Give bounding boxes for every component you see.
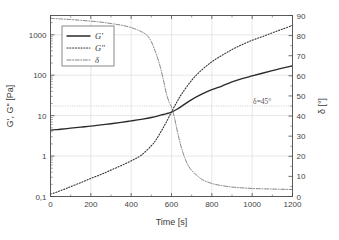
y-tick-label: 0,1: [35, 193, 47, 202]
x-tick-label: 1000: [243, 200, 261, 209]
legend-label-g-prime: G': [95, 31, 103, 41]
x-tick-label: 0: [48, 200, 53, 209]
y2-tick-label: 90: [297, 12, 306, 21]
x-tick-label: 800: [205, 200, 219, 209]
x-tick-label: 200: [84, 200, 98, 209]
y2-tick-label: 20: [297, 152, 306, 161]
x-axis-title: Time [s]: [156, 217, 188, 227]
x-tick-label: 400: [124, 200, 138, 209]
y-tick-label: 100: [33, 71, 47, 80]
chart-figure: 0200400600800100012000,11101001000010203…: [0, 0, 339, 240]
y-tick-label: 1000: [29, 31, 47, 40]
y2-tick-label: 0: [297, 193, 302, 202]
y-axis-title: G', G'' [Pa]: [5, 85, 15, 128]
y-tick-label: 1: [42, 152, 47, 161]
y2-tick-label: 40: [297, 112, 306, 121]
y2-tick-label: 60: [297, 72, 306, 81]
y2-tick-label: 10: [297, 172, 306, 181]
y2-tick-label: 50: [297, 92, 306, 101]
rheology-chart: 0200400600800100012000,11101001000010203…: [0, 0, 339, 240]
y-tick-label: 10: [38, 112, 47, 121]
y2-tick-label: 80: [297, 32, 306, 41]
y2-axis-title: δ [°]: [317, 98, 327, 114]
legend-label-g-double-prime: G'': [95, 43, 105, 53]
y2-tick-label: 30: [297, 132, 306, 141]
x-tick-label: 600: [165, 200, 179, 209]
y2-tick-label: 70: [297, 52, 306, 61]
annotation-delta-45: δ=45°: [253, 97, 271, 106]
